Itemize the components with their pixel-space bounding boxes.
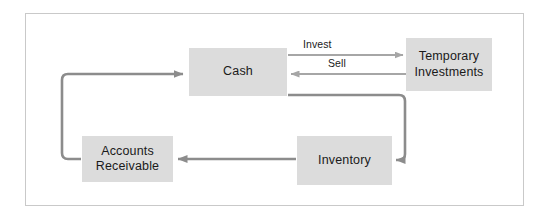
node-accounts-receivable[interactable]: Accounts Receivable	[82, 136, 173, 182]
node-cash-label: Cash	[223, 64, 253, 79]
node-accounts-receivable-label: Accounts Receivable	[96, 144, 159, 175]
node-inventory[interactable]: Inventory	[297, 136, 392, 185]
node-temporary-investments-label: Temporary Investments	[414, 49, 483, 80]
node-cash[interactable]: Cash	[189, 48, 287, 96]
diagram-connectors	[0, 0, 544, 219]
operating-cycle-diagram: Cash Temporary Investments Inventory Acc…	[0, 0, 544, 219]
edge-label-invest: Invest	[300, 38, 335, 50]
edge-label-sell: Sell	[325, 57, 349, 69]
node-inventory-label: Inventory	[318, 153, 371, 168]
node-temporary-investments[interactable]: Temporary Investments	[406, 38, 492, 91]
